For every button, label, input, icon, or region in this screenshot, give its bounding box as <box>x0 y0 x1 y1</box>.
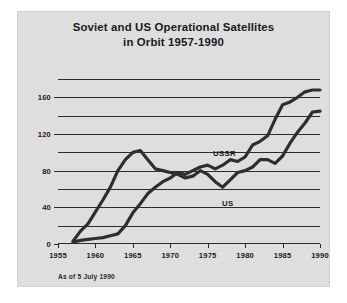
x-axis-tick-label: 1990 <box>300 251 340 260</box>
series-label-ussr: USSR <box>213 149 236 158</box>
x-axis-tick <box>133 244 134 248</box>
y-axis-tick-label: 0 <box>19 240 51 249</box>
x-axis-tick <box>208 244 209 248</box>
x-axis-tick <box>95 244 96 248</box>
series-plot-area <box>58 79 320 244</box>
x-axis-tick <box>320 244 321 248</box>
x-axis-tick-label: 1975 <box>188 251 228 260</box>
x-axis-tick <box>245 244 246 248</box>
x-axis-tick-label: 1960 <box>75 251 115 260</box>
x-axis-tick-label: 1955 <box>38 251 78 260</box>
y-axis-tick-label: 80 <box>19 167 51 176</box>
chart-title-line-1: Soviet and US Operational Satellites <box>17 20 330 35</box>
chart-figure: Soviet and US Operational Satellites in … <box>0 0 347 303</box>
chart-footnote: As of 5 July 1990 <box>58 273 115 280</box>
chart-panel-inner: Soviet and US Operational Satellites in … <box>17 11 330 287</box>
x-axis-tick <box>58 244 59 248</box>
chart-panel: Soviet and US Operational Satellites in … <box>17 11 330 287</box>
x-axis-tick-label: 1970 <box>150 251 190 260</box>
x-axis-tick <box>170 244 171 248</box>
series-label-us: US <box>222 199 233 208</box>
y-axis-tick-label: 160 <box>19 93 51 102</box>
x-axis-tick-label: 1965 <box>113 251 153 260</box>
series-line-ussr <box>73 90 320 242</box>
chart-title-line-2: in Orbit 1957-1990 <box>17 35 330 50</box>
series-line-us <box>73 111 320 241</box>
x-axis-tick-label: 1985 <box>263 251 303 260</box>
y-axis-tick-label: 40 <box>19 203 51 212</box>
y-axis-tick-label: 120 <box>19 130 51 139</box>
x-axis-tick <box>283 244 284 248</box>
x-axis-tick-label: 1980 <box>225 251 265 260</box>
chart-title: Soviet and US Operational Satellites in … <box>17 20 330 49</box>
